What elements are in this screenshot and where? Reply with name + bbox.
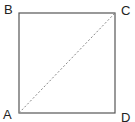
vertex-label-b: B bbox=[4, 3, 13, 16]
vertex-label-d: D bbox=[121, 111, 130, 122]
diagonal-ac bbox=[19, 13, 115, 113]
vertex-label-a: A bbox=[3, 108, 12, 121]
square-diagram bbox=[0, 0, 135, 122]
vertex-label-c: C bbox=[121, 4, 130, 17]
